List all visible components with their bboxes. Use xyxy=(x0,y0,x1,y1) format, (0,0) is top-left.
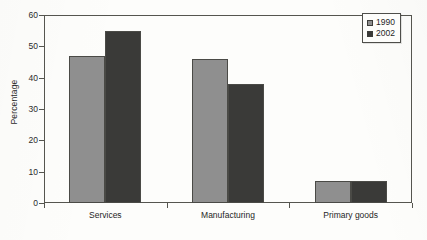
legend-item-2002: 2002 xyxy=(367,28,395,39)
legend-item-1990: 1990 xyxy=(367,17,395,28)
bar-2002-services xyxy=(105,31,141,203)
y-axis-tick-label: 40 xyxy=(0,73,44,83)
x-axis-category-label-services: Services xyxy=(44,210,167,220)
bar-2002-primary-goods xyxy=(351,181,387,203)
x-axis-tick-mark xyxy=(412,203,413,208)
y-axis-tick-label: 20 xyxy=(0,135,44,145)
legend-swatch-icon-1990 xyxy=(367,20,373,26)
bar-1990-services xyxy=(69,56,105,203)
x-axis-category-label-primary-goods: Primary goods xyxy=(289,210,412,220)
x-axis-tick-mark xyxy=(44,203,45,208)
bar-chart-screenshot: Percentage 0102030405060 ServicesManufac… xyxy=(0,0,427,240)
legend-label-1990: 1990 xyxy=(376,17,395,28)
bar-2002-manufacturing xyxy=(228,84,264,203)
y-axis-tick-label: 0 xyxy=(0,198,44,208)
y-axis-tick-label: 30 xyxy=(0,104,44,114)
x-axis-tick-mark xyxy=(167,203,168,208)
y-axis-label-text: Percentage xyxy=(9,79,19,124)
y-axis-tick-label: 60 xyxy=(0,10,44,20)
y-axis-tick-label: 10 xyxy=(0,167,44,177)
chart-legend: 19902002 xyxy=(362,13,401,43)
legend-swatch-icon-2002 xyxy=(367,31,373,37)
x-axis-category-label-manufacturing: Manufacturing xyxy=(167,210,290,220)
x-axis-tick-mark xyxy=(289,203,290,208)
bars-layer xyxy=(44,15,412,203)
legend-label-2002: 2002 xyxy=(376,28,395,39)
bar-1990-manufacturing xyxy=(192,59,228,203)
y-axis-tick-label: 50 xyxy=(0,41,44,51)
bar-1990-primary-goods xyxy=(315,181,351,203)
